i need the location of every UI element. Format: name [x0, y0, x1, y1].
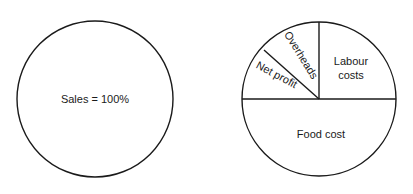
cost-breakdown-pie: Labour costs Overheads Net profit Food c…: [242, 22, 396, 176]
net-profit-label: Net profit: [254, 59, 299, 91]
diagram-canvas: Sales = 100% Labour costs Overheads Net …: [0, 0, 413, 194]
food-cost-label: Food cost: [297, 128, 345, 140]
labour-costs-label-line2: costs: [338, 69, 364, 81]
labour-costs-label-line1: Labour: [334, 55, 369, 67]
sales-label: Sales = 100%: [61, 93, 129, 105]
sales-pie: Sales = 100%: [17, 21, 173, 177]
